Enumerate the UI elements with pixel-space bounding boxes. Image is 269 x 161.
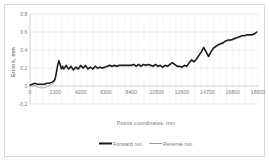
- y-tick-label: 0: [25, 83, 28, 89]
- y-tick-label: 0.4: [20, 47, 27, 53]
- legend-label-reverse-run: Reverse run: [163, 141, 192, 147]
- x-tick-label: 10500: [149, 89, 164, 95]
- legend-label-forward-run: Forward run: [113, 141, 142, 147]
- x-tick-label: 4200: [75, 89, 87, 95]
- chart-legend: Forward run Reverse run: [99, 141, 192, 147]
- series-line-reverse-run: [30, 33, 257, 88]
- x-tick-label: 12600: [175, 89, 190, 95]
- x-tick-label: 14700: [200, 89, 215, 95]
- x-tick-label: 18900: [251, 89, 266, 95]
- y-tick-label: 0.6: [20, 29, 27, 35]
- vertical-gridlines: [30, 14, 258, 104]
- y-tick-label: 0.8: [20, 11, 27, 17]
- x-tick-label: 6300: [100, 89, 112, 95]
- y-axis-title: Errors, mm: [10, 47, 16, 77]
- line-chart: -0.200.20.40.60.8 0210042006300840010500…: [0, 0, 269, 161]
- x-tick-label: 2100: [50, 89, 62, 95]
- x-axis-title: Points coordinates, mm: [117, 120, 176, 126]
- y-tick-label: -0.2: [19, 101, 28, 107]
- x-tick-label: 0: [29, 89, 32, 95]
- x-tick-label: 16800: [225, 89, 240, 95]
- x-tick-label: 8400: [126, 89, 138, 95]
- chart-figure: -0.200.20.40.60.8 0210042006300840010500…: [0, 0, 269, 161]
- y-tick-label: 0.2: [20, 65, 27, 71]
- y-axis-tick-labels: -0.200.20.40.60.8: [19, 11, 28, 107]
- series-line-forward-run: [30, 32, 257, 85]
- x-axis-tick-labels: 0210042006300840010500126001470016800189…: [29, 89, 266, 95]
